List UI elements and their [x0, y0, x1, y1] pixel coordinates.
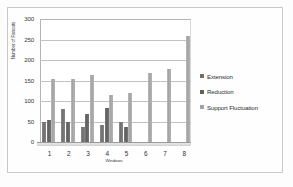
x-tick-label: 4 — [100, 150, 114, 158]
x-tick-label: 6 — [139, 150, 153, 158]
x-tick-label: 8 — [177, 150, 191, 158]
bar-group — [117, 19, 136, 142]
bar-group — [40, 19, 59, 142]
legend-label: Reduction — [207, 88, 234, 95]
bar — [100, 125, 104, 142]
x-tick-label: 2 — [62, 150, 76, 158]
bar-group — [59, 19, 78, 142]
bar-group — [98, 19, 117, 142]
bar — [85, 114, 89, 142]
x-tick-label: 1 — [43, 150, 57, 158]
legend-item-support-fluctuation: Support Fluctuation — [200, 103, 284, 111]
y-tick-label: 0 — [10, 139, 34, 145]
x-tick-label: 7 — [158, 150, 172, 158]
y-tick-label: 100 — [10, 98, 34, 104]
legend-item-reduction: Reduction — [200, 88, 284, 96]
bar — [109, 95, 113, 142]
x-tick-label: 5 — [120, 150, 134, 158]
bar — [66, 122, 70, 143]
bar — [71, 79, 75, 142]
bar — [128, 93, 132, 142]
bar — [90, 75, 94, 142]
bar-group — [79, 19, 98, 142]
legend-swatch-icon — [200, 90, 204, 94]
bar — [148, 73, 152, 142]
bar-group — [156, 19, 175, 142]
bar-group — [136, 19, 155, 142]
bar-group — [175, 19, 194, 142]
chart-figure: 300 250 200 150 100 50 0 Number of Fanou… — [0, 0, 293, 187]
bar — [47, 120, 51, 142]
y-tick-label: 50 — [10, 119, 34, 125]
bar — [61, 109, 65, 142]
bar — [105, 108, 109, 142]
x-axis-title: Windows — [37, 158, 191, 163]
legend-swatch-icon — [200, 74, 204, 78]
legend-label: Extension — [207, 73, 233, 80]
axis-floor — [37, 142, 191, 146]
legend-item-extension: Extension — [200, 72, 284, 80]
x-tick-label: 3 — [81, 150, 95, 158]
bar — [42, 122, 46, 142]
chart-legend: Extension Reduction Support Fluctuation — [200, 72, 284, 119]
bar — [119, 122, 123, 142]
bar — [167, 69, 171, 142]
y-axis-title: Number of Fanouts — [11, 6, 16, 76]
legend-label: Support Fluctuation — [207, 104, 258, 111]
bar — [51, 79, 55, 142]
plot-area — [37, 19, 191, 146]
bar — [124, 127, 128, 142]
bar — [186, 36, 190, 142]
y-tick-label: 150 — [10, 78, 34, 84]
legend-swatch-icon — [200, 105, 204, 109]
bar — [81, 127, 85, 142]
